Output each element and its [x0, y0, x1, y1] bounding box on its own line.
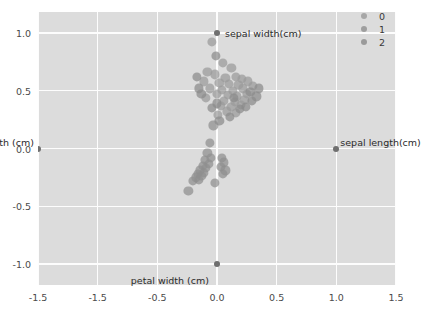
- feature-annotation-label: petal width (cm): [131, 275, 209, 286]
- legend-label: 0: [379, 10, 385, 21]
- y-axis-tick-label: 0.5: [2, 85, 31, 96]
- legend-item[interactable]: 2: [359, 35, 403, 48]
- anchor-point: [38, 146, 41, 152]
- legend-item[interactable]: 1: [359, 22, 403, 35]
- data-point: [215, 116, 224, 125]
- data-point: [218, 169, 227, 178]
- legend-marker-icon: [361, 39, 367, 45]
- gridline-horizontal: [38, 206, 396, 208]
- y-axis-tick-label: 1.0: [2, 27, 31, 38]
- data-point: [189, 176, 198, 185]
- x-axis-tick-label: 1.0: [329, 292, 344, 303]
- feature-annotation-label: petal length (cm): [0, 137, 34, 148]
- feature-annotation-label: sepal width(cm): [225, 28, 301, 39]
- y-axis-tick-label: -0.5: [2, 201, 31, 212]
- x-axis-tick-label: -1.5: [88, 292, 107, 303]
- anchor-point: [214, 261, 220, 267]
- x-axis-tick-label: -0.5: [148, 292, 167, 303]
- anchor-point: [333, 146, 339, 152]
- x-axis-tick-label: 1.5: [388, 292, 403, 303]
- y-axis-tick-label: -1.0: [2, 259, 31, 270]
- data-point: [247, 96, 256, 105]
- plot-panel: [38, 12, 396, 285]
- data-point: [226, 113, 235, 122]
- data-point: [210, 179, 219, 188]
- x-axis-tick-label: 0.0: [209, 292, 224, 303]
- feature-annotation-label: sepal length(cm): [340, 137, 420, 148]
- legend-item[interactable]: 0: [359, 9, 403, 22]
- data-point: [184, 187, 193, 196]
- x-axis-tick-label: 0.5: [269, 292, 284, 303]
- gridline-horizontal: [38, 148, 396, 150]
- x-axis-tick-label: -1.5: [29, 292, 48, 303]
- anchor-point: [214, 30, 220, 36]
- legend-marker-icon: [361, 13, 367, 19]
- data-point: [254, 84, 263, 93]
- legend-label: 2: [379, 36, 385, 47]
- legend-label: 1: [379, 23, 385, 34]
- legend-marker-icon: [361, 26, 367, 32]
- data-point: [227, 63, 236, 72]
- legend: 012: [359, 9, 403, 48]
- data-point: [205, 138, 214, 147]
